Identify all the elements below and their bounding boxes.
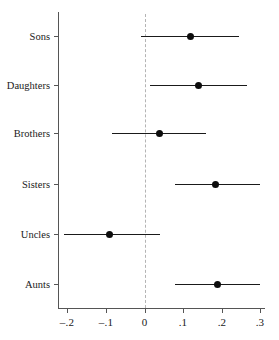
x-axis-tick [106,308,107,313]
y-axis-label-aunts: Aunts [0,279,50,290]
x-axis-tick [222,308,223,313]
y-axis-label-sisters: Sisters [0,179,50,190]
y-axis-spine [58,12,59,309]
x-axis-tick-label: .3 [243,317,277,328]
zero-reference-line [145,14,146,308]
x-axis-spine [58,308,265,309]
x-axis-tick [260,308,261,313]
x-axis-tick-label: 0 [128,317,162,328]
y-axis-tick [54,133,59,134]
point-estimate-marker [214,281,221,288]
y-axis-tick [54,36,59,37]
y-axis-tick [54,234,59,235]
y-axis-label-sons: Sons [0,31,50,42]
forest-plot: Sons Daughters Brothers Sisters Uncles A… [0,0,279,340]
y-axis-label-uncles: Uncles [0,229,50,240]
x-axis-tick [145,308,146,313]
point-estimate-marker [106,231,113,238]
point-estimate-marker [156,130,163,137]
point-estimate-marker [187,33,194,40]
y-axis-label-daughters: Daughters [0,80,50,91]
x-axis-tick-label: –.2 [50,317,84,328]
y-axis-label-brothers: Brothers [0,128,50,139]
point-estimate-marker [212,181,219,188]
point-estimate-marker [195,82,202,89]
x-axis-tick [183,308,184,313]
x-axis-tick-label: –.1 [89,317,123,328]
x-axis-tick-label: .2 [205,317,239,328]
x-axis-tick-label: .1 [166,317,200,328]
y-axis-tick [54,85,59,86]
x-axis-tick [67,308,68,313]
y-axis-tick [54,184,59,185]
y-axis-tick [54,284,59,285]
